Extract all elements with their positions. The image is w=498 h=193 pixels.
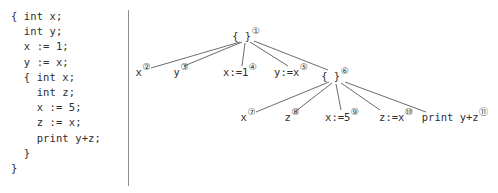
tree-node-label: { } [232,30,251,42]
code-line: { int x; [11,70,101,85]
tree-node-n11: print y+z⑪ [422,111,488,123]
tree-node-label: z [285,111,291,123]
tree-node-n1: { }① [232,30,260,42]
tree-edge-n1-n2 [151,42,240,68]
tree-node-number-badge: ⑥ [341,67,349,76]
tree-node-n2: x② [136,66,151,78]
tree-edge-n6-n9 [336,84,341,110]
scope-tree-figure: { int x; int y; x := 1; y := x; { int x;… [0,0,498,193]
tree-node-label: y [174,66,180,78]
tree-node-label: x:=1 [223,66,248,78]
tree-node-label: y:=x [274,66,299,78]
tree-node-n3: y③ [174,66,189,78]
tree-node-label: print y+z [422,111,479,123]
tree-node-label: { } [321,70,340,82]
code-line: x := 1; [11,39,101,54]
tree-edge-n6-n8 [296,83,332,111]
tree-node-n4: x:=1④ [223,66,257,78]
tree-node-number-badge: ② [142,63,150,72]
tree-node-label: x:=5 [325,111,350,123]
tree-node-n6: { }⑥ [321,70,349,82]
tree-panel: { }①x②y③x:=1④y:=x⑤{ }⑥x⑦z⑧x:=5⑨z:=x⑩prin… [128,0,498,193]
tree-node-label: x [136,66,142,78]
tree-edge-layer [128,0,498,193]
tree-node-n9: x:=5⑨ [325,111,359,123]
code-line: { int x; [11,9,101,24]
code-line: int y; [11,24,101,39]
tree-node-label: z:=x [379,111,404,123]
code-line: y := x; [11,55,101,70]
tree-node-number-badge: ⑧ [291,108,299,117]
code-line: } [11,161,101,176]
code-line: } [11,146,101,161]
code-line: x := 5; [11,100,101,115]
tree-node-label: x [241,111,247,123]
tree-node-n10: z:=x⑩ [379,111,413,123]
tree-node-number-badge: ① [252,27,260,36]
code-line: print y+z; [11,131,101,146]
tree-node-number-badge: ③ [180,63,188,72]
code-line: z := x; [11,115,101,130]
tree-node-number-badge: ⑤ [300,63,308,72]
source-code-listing: { int x; int y; x := 1; y := x; { int x;… [11,9,101,176]
tree-edge-n1-n4 [242,43,245,66]
tree-node-number-badge: ④ [249,63,257,72]
tree-edge-n6-n10 [341,83,380,110]
code-panel: { int x; int y; x := 1; y := x; { int x;… [0,0,128,193]
tree-node-n8: z⑧ [285,111,300,123]
tree-node-number-badge: ⑨ [351,108,359,117]
tree-node-n5: y:=x⑤ [274,66,308,78]
tree-node-number-badge: ⑩ [405,108,413,117]
code-line: int z; [11,85,101,100]
tree-edge-n1-n3 [184,42,242,66]
tree-node-number-badge: ⑦ [247,108,255,117]
tree-node-n7: x⑦ [241,111,256,123]
tree-node-number-badge: ⑪ [479,108,488,117]
